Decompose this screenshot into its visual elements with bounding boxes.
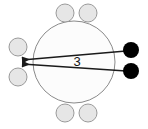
gray-node-bottom-right[interactable] [79,104,97,122]
gray-node-left-upper[interactable] [9,38,27,56]
diagram-canvas: 3 [0,0,148,129]
black-nodes-group [123,42,139,79]
gray-node-bottom-left[interactable] [56,104,74,122]
black-node-lower[interactable] [123,63,139,79]
gray-node-top-right[interactable] [79,4,97,22]
diagram-svg: 3 [0,0,148,129]
gray-node-top-left[interactable] [56,4,74,22]
black-node-upper[interactable] [123,42,139,58]
edge-weight-label: 3 [73,54,80,69]
gray-node-left-lower[interactable] [9,68,27,86]
